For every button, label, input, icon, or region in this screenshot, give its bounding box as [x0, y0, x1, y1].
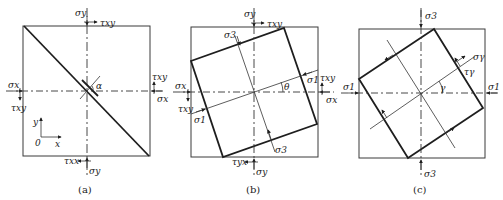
sigma-x-right-label: σx — [326, 95, 337, 105]
y-axis-label: y — [32, 117, 39, 127]
sigma3-direction — [235, 36, 275, 152]
caption-b: (b) — [246, 184, 260, 195]
sigma-y-bottom-label: σy — [89, 166, 101, 176]
sigma1-right-label: σ1 — [488, 82, 500, 92]
x-axis-label: x — [55, 139, 60, 149]
sigma-gamma-label: σγ — [473, 52, 485, 62]
sigma1-left-label: σ1 — [194, 115, 206, 125]
stress-element-diagram: α σy τxy σx τxy τxy σx τxx σy y x 0 (a) — [0, 0, 503, 200]
element-square — [359, 29, 485, 158]
sigma3-bottom-label: σ3 — [424, 169, 436, 179]
sigma1-left-label: σ1 — [343, 82, 355, 92]
panel-b: θ σ1 σ1 σ3 σ3 σy τxy σx τxy τxy σx τyx σ… — [173, 8, 337, 195]
shear-arrow-bottom-right — [446, 128, 454, 133]
tau-bottom-label: τxx — [64, 156, 79, 166]
sigma-y-top-label: σy — [244, 9, 256, 19]
sigma-x-left-label: σx — [8, 80, 19, 90]
sigma3-bottom-arrow — [268, 130, 271, 139]
angle-gamma-label: γ — [440, 83, 446, 93]
tau-yx-bottom-label: τyx — [232, 157, 247, 167]
sigma-x-left-label: σx — [175, 81, 186, 91]
tau-xy-top-label: τxy — [267, 19, 283, 29]
sigma1-right-label: σ1 — [307, 75, 319, 85]
tau-xy-left-label: τxy — [11, 103, 27, 113]
angle-arc — [281, 82, 283, 92]
caption-c: (c) — [413, 184, 427, 195]
tau-xy-right-label: τxy — [320, 73, 336, 83]
sigma-y-top-label: σy — [75, 8, 87, 18]
tau-gamma-label: τγ — [464, 67, 475, 77]
angle-theta-label: θ — [284, 82, 290, 92]
tau-xy-top-label: τxy — [100, 18, 116, 28]
caption-a: (a) — [78, 184, 92, 195]
panel-c: γ σγ τγ σ3 σ3 σ1 σ1 (c) — [341, 8, 501, 195]
sigma3-bottom-label: σ3 — [275, 145, 287, 155]
tau-xy-left-label: τxy — [178, 104, 194, 114]
origin-label: 0 — [35, 138, 41, 148]
angle-alpha-label: α — [96, 81, 102, 91]
sigma-gamma-direction — [370, 57, 474, 129]
sigma1-left-arrow — [196, 109, 205, 112]
sigma3-top-label: σ3 — [224, 30, 236, 40]
sigma-x-right-label: σx — [157, 94, 168, 104]
sigma3-top-label: σ3 — [425, 11, 437, 21]
panel-a: α σy τxy σx τxy τxy σx τxx σy y x 0 (a) — [6, 8, 168, 195]
tau-xy-right-label: τxy — [152, 72, 168, 82]
sigma-y-bottom-label: σy — [256, 167, 268, 177]
